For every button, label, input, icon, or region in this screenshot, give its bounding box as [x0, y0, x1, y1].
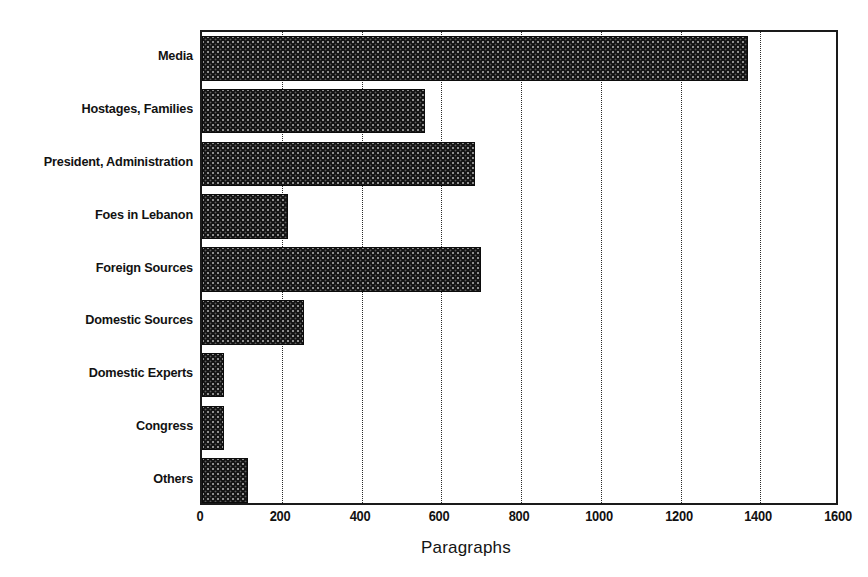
y-axis-label-0: Media	[12, 49, 193, 63]
bar	[202, 89, 425, 134]
y-axis-label-3: Foes in Lebanon	[12, 208, 193, 222]
bar	[202, 458, 248, 503]
gridline-1400	[760, 32, 761, 503]
bar	[202, 194, 288, 239]
y-axis-label-8: Others	[12, 472, 193, 486]
bar	[202, 142, 475, 187]
x-tick-label-0: 0	[197, 508, 204, 524]
bar	[202, 36, 748, 81]
y-axis-label-4: Foreign Sources	[12, 261, 193, 275]
x-tick-label-400: 400	[349, 508, 370, 524]
y-axis-label-5: Domestic Sources	[12, 313, 193, 327]
x-tick-label-800: 800	[509, 508, 530, 524]
plot-area	[200, 30, 838, 505]
bar	[202, 353, 224, 398]
y-axis-label-6: Domestic Experts	[12, 366, 193, 380]
y-axis-label-7: Congress	[12, 419, 193, 433]
plot-inner	[202, 32, 836, 503]
x-tick-label-1600: 1600	[824, 508, 852, 524]
bar	[202, 300, 304, 345]
bar	[202, 406, 224, 451]
y-axis-label-1: Hostages, Families	[12, 102, 193, 116]
x-axis-title: Paragraphs	[0, 538, 868, 558]
x-tick-label-1400: 1400	[744, 508, 772, 524]
x-tick-label-1000: 1000	[585, 508, 613, 524]
x-tick-label-1200: 1200	[665, 508, 693, 524]
gridline-1000	[601, 32, 602, 503]
bar	[202, 247, 481, 292]
x-tick-label-200: 200	[269, 508, 290, 524]
gridline-800	[521, 32, 522, 503]
x-axis-tick-labels: 02004006008001000120014001600	[200, 508, 838, 532]
x-tick-label-600: 600	[429, 508, 450, 524]
y-axis-category-labels: MediaHostages, FamiliesPresident, Admini…	[0, 30, 193, 505]
bar-chart: MediaHostages, FamiliesPresident, Admini…	[0, 0, 868, 577]
y-axis-label-2: President, Administration	[12, 155, 193, 169]
gridline-1200	[681, 32, 682, 503]
